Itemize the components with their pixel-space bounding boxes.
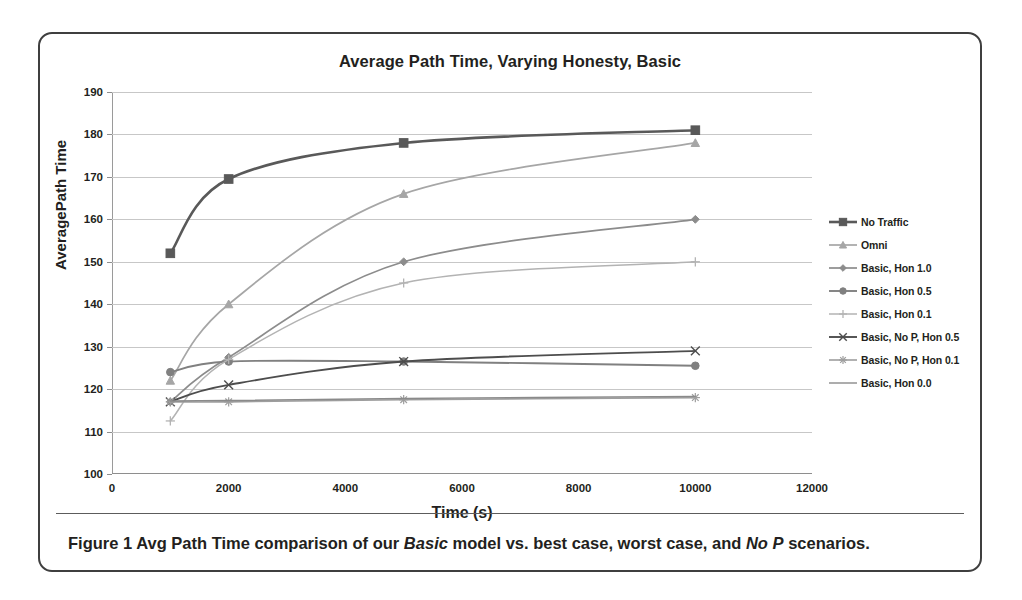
legend-swatch-square-icon	[828, 215, 858, 229]
legend-label: Basic, Hon 1.0	[861, 262, 931, 274]
y-tick-label: 100	[84, 468, 103, 480]
legend-item-7[interactable]: Basic, No P, Hon 0.1	[828, 348, 978, 371]
data-point-marker-star	[166, 397, 175, 406]
legend-swatch-none-icon	[828, 376, 858, 390]
data-point-marker-circle	[840, 287, 846, 293]
legend-item-5[interactable]: Basic, Hon 0.1	[828, 302, 978, 325]
legend-item-2[interactable]: Omni	[828, 233, 978, 256]
x-tick-label: 8000	[566, 482, 592, 494]
caption-emphasis-nop: No P	[746, 534, 784, 552]
legend-swatch-circle-icon	[828, 284, 858, 298]
legend-swatch-triangle-icon	[828, 238, 858, 252]
data-point-marker-star	[839, 356, 847, 364]
data-point-marker-star	[691, 393, 700, 402]
legend-item-4[interactable]: Basic, Hon 0.5	[828, 279, 978, 302]
legend-label: Basic, No P, Hon 0.1	[861, 354, 959, 366]
data-point-marker-circle	[692, 362, 700, 370]
y-tick-label: 190	[84, 86, 103, 98]
x-tick-label: 4000	[333, 482, 359, 494]
legend-swatch-plus-icon	[828, 307, 858, 321]
data-point-marker-square	[224, 175, 233, 184]
chart-legend: No TrafficOmniBasic, Hon 1.0Basic, Hon 0…	[828, 210, 978, 394]
legend-swatch-star-icon	[828, 353, 858, 367]
data-point-marker-plus	[691, 257, 700, 266]
data-point-marker-plus	[399, 278, 408, 287]
data-point-marker-diamond	[400, 258, 408, 266]
legend-item-8[interactable]: Basic, Hon 0.0	[828, 371, 978, 394]
data-point-marker-square	[399, 139, 408, 148]
series-1	[166, 126, 700, 258]
legend-label: Basic, No P, Hon 0.5	[861, 331, 959, 343]
plot-area: 100110120130140150160170180190 020004000…	[112, 92, 812, 474]
data-point-marker-star	[224, 397, 233, 406]
x-tick-label: 12000	[796, 482, 828, 494]
legend-label: Basic, Hon 0.5	[861, 285, 931, 297]
data-point-marker-star	[399, 395, 408, 404]
y-tick-label: 140	[84, 298, 103, 310]
caption-suffix: scenarios.	[784, 534, 870, 552]
legend-item-3[interactable]: Basic, Hon 1.0	[828, 256, 978, 279]
x-tick-label: 6000	[449, 482, 475, 494]
series-3	[166, 215, 699, 405]
caption-emphasis-basic: Basic	[404, 534, 448, 552]
legend-label: Omni	[861, 239, 887, 251]
series-plot	[112, 92, 812, 474]
y-tick-label: 160	[84, 213, 103, 225]
y-tick-label: 170	[84, 171, 103, 183]
y-tick-label: 130	[84, 341, 103, 353]
data-point-marker-square	[166, 249, 175, 258]
data-point-marker-diamond	[691, 215, 699, 223]
y-tick-label: 120	[84, 383, 103, 395]
caption-middle: model vs. best case, worst case, and	[448, 534, 746, 552]
y-tick-label: 180	[84, 128, 103, 140]
legend-label: No Traffic	[861, 216, 908, 228]
y-tick-label: 150	[84, 256, 103, 268]
legend-swatch-cross-icon	[828, 330, 858, 344]
figure-card: Average Path Time, Varying Honesty, Basi…	[38, 32, 982, 572]
caption-divider	[56, 513, 964, 514]
data-point-marker-square	[691, 126, 700, 135]
legend-label: Basic, Hon 0.0	[861, 377, 931, 389]
data-point-marker-circle	[167, 368, 175, 376]
x-tick-label: 0	[109, 482, 115, 494]
legend-swatch-diamond-icon	[828, 261, 858, 275]
data-point-marker-diamond	[840, 264, 847, 271]
data-point-marker-square	[839, 218, 846, 225]
x-tick-label: 10000	[679, 482, 711, 494]
figure-caption: Figure 1 Avg Path Time comparison of our…	[68, 533, 956, 554]
chart-title: Average Path Time, Varying Honesty, Basi…	[40, 52, 980, 71]
x-tick-label: 2000	[216, 482, 242, 494]
y-axis-title: AveragePath Time	[52, 140, 69, 270]
data-point-marker-plus	[839, 310, 847, 318]
legend-label: Basic, Hon 0.1	[861, 308, 931, 320]
caption-prefix: Figure 1 Avg Path Time comparison of our	[68, 534, 404, 552]
legend-item-1[interactable]: No Traffic	[828, 210, 978, 233]
y-tick-label: 110	[84, 426, 103, 438]
legend-item-6[interactable]: Basic, No P, Hon 0.5	[828, 325, 978, 348]
y-tick-mark	[107, 474, 112, 475]
series-2	[166, 139, 699, 384]
